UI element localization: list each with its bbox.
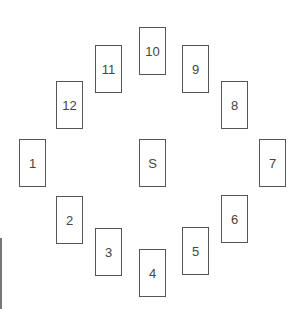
card-1: 1 xyxy=(19,139,46,187)
card-4: 4 xyxy=(139,249,166,297)
card-5: 5 xyxy=(182,227,209,275)
card-significator: S xyxy=(139,139,166,187)
edge-line xyxy=(0,238,2,309)
card-label: 1 xyxy=(29,156,36,171)
card-label: 7 xyxy=(269,156,276,171)
card-2: 2 xyxy=(56,196,83,244)
card-11: 11 xyxy=(95,45,122,93)
card-9: 9 xyxy=(182,45,209,93)
card-label: 4 xyxy=(149,266,156,281)
card-6: 6 xyxy=(221,195,248,243)
card-label: 6 xyxy=(231,212,238,227)
card-label: 3 xyxy=(105,245,112,260)
card-label: S xyxy=(148,156,157,171)
card-label: 10 xyxy=(145,44,159,59)
card-7: 7 xyxy=(259,139,286,187)
card-label: 9 xyxy=(192,62,199,77)
card-label: 11 xyxy=(102,62,116,77)
card-label: 5 xyxy=(192,244,199,259)
card-label: 2 xyxy=(66,213,73,228)
card-10: 10 xyxy=(139,27,166,75)
card-8: 8 xyxy=(221,81,248,129)
card-12: 12 xyxy=(56,81,83,129)
card-label: 8 xyxy=(231,98,238,113)
card-3: 3 xyxy=(95,228,122,276)
card-label: 12 xyxy=(62,98,76,113)
